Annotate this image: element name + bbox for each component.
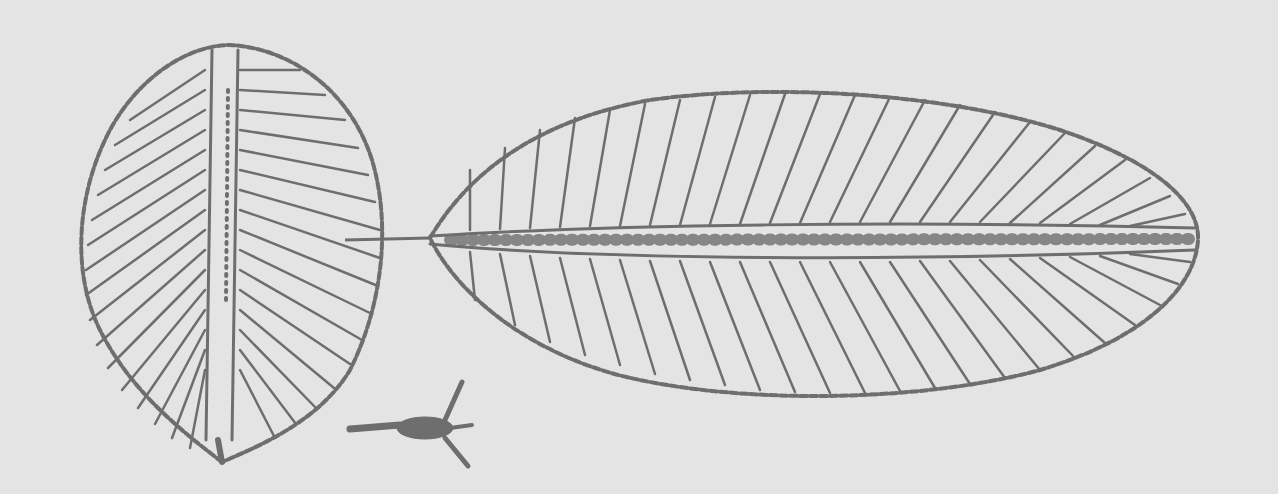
long-leaf — [430, 92, 1198, 396]
small-organism — [350, 382, 472, 466]
illustration — [0, 0, 1278, 494]
illustration-canvas — [0, 0, 1278, 494]
stem — [345, 238, 430, 240]
round-leaf — [81, 45, 382, 462]
